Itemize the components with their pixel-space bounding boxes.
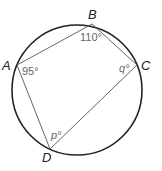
circle xyxy=(12,25,142,155)
angle-a-label: 95° xyxy=(22,65,39,77)
point-label-b: B xyxy=(88,7,97,22)
angle-d-label: p° xyxy=(50,129,62,141)
point-label-c: C xyxy=(141,58,151,73)
point-label-a: A xyxy=(1,58,11,73)
angle-b-label: 110° xyxy=(80,31,102,43)
point-label-d: D xyxy=(42,150,51,165)
angle-c-label: q° xyxy=(119,62,130,74)
cyclic-quadrilateral-diagram: A B C D 95° 110° q° p° xyxy=(0,0,162,171)
quadrilateral-abcd xyxy=(17,24,137,149)
